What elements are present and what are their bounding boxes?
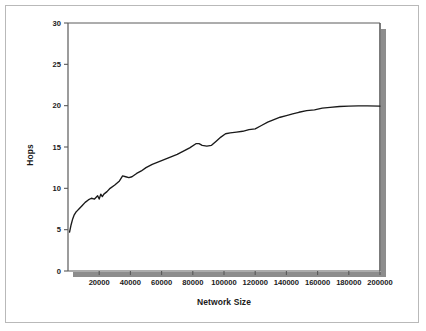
x-axis-label: Network Size xyxy=(197,297,251,307)
x-tick-label: 140000 xyxy=(274,278,299,287)
x-tick-label: 60000 xyxy=(151,278,172,287)
x-tick-label: 40000 xyxy=(120,278,141,287)
x-tick-label: 80000 xyxy=(182,278,203,287)
plot-shadow-right xyxy=(381,29,386,276)
plot-shadow-bottom xyxy=(73,272,386,277)
figure-canvas: 051015202530 200004000060000800001000001… xyxy=(0,0,426,331)
chart-plot: 051015202530 200004000060000800001000001… xyxy=(0,0,426,331)
y-tick-label: 20 xyxy=(53,101,61,110)
y-tick-label: 25 xyxy=(53,60,62,69)
x-tick-label: 160000 xyxy=(305,278,330,287)
x-tick-label: 100000 xyxy=(211,278,236,287)
y-tick-labels: 051015202530 xyxy=(53,19,62,276)
x-tick-labels: 2000040000600008000010000012000014000016… xyxy=(89,278,393,287)
plot-background xyxy=(68,23,380,271)
y-tick-label: 5 xyxy=(57,225,62,234)
y-tick-label: 0 xyxy=(57,267,61,276)
x-tick-label: 20000 xyxy=(89,278,110,287)
y-tick-label: 10 xyxy=(53,184,61,193)
y-tick-label: 30 xyxy=(53,19,61,28)
y-axis-label: Hops xyxy=(25,144,35,166)
x-tick-label: 120000 xyxy=(243,278,268,287)
x-tick-label: 180000 xyxy=(336,278,361,287)
x-tick-label: 200000 xyxy=(367,278,392,287)
y-tick-label: 15 xyxy=(53,143,62,152)
